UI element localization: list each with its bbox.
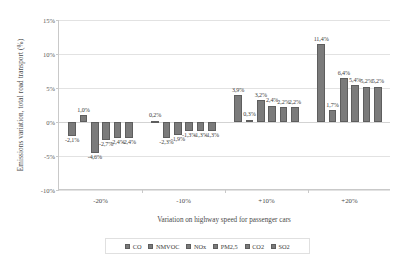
x-axis-title: Variation on highway speed for passenger…	[58, 216, 390, 224]
bar-PM25-20[interactable]	[351, 85, 358, 122]
bar-PM25-20[interactable]	[102, 122, 109, 140]
bar-value-label: 6,4%	[338, 70, 350, 76]
emissions-variation-bar-chart: Emissions variation, total road transpor…	[0, 0, 413, 274]
bar-CO2-20[interactable]	[114, 122, 121, 138]
bar-value-label: 11,4%	[314, 36, 329, 42]
bar-NMVOC-10[interactable]	[246, 120, 253, 122]
bar-SO2-20[interactable]	[374, 87, 381, 122]
legend-label: NOx	[194, 243, 206, 250]
group-separator	[308, 189, 309, 193]
bar-value-label: 0,2%	[149, 112, 161, 118]
x-tick-label: -10%	[176, 197, 191, 204]
legend-item-NOx[interactable]: NOx	[186, 243, 206, 250]
bar-NOx-10[interactable]	[174, 122, 181, 135]
legend-swatch-icon	[148, 244, 153, 249]
x-tick-label: +20%	[341, 197, 357, 204]
bar-CO2-20[interactable]	[363, 87, 370, 122]
bar-value-label: -4,6%	[88, 154, 102, 160]
group-separator	[225, 189, 226, 193]
bar-CO-20[interactable]	[68, 122, 75, 136]
bar-CO-10[interactable]	[151, 121, 158, 123]
bar-value-label: -2,4%	[122, 139, 136, 145]
y-tick-mark	[56, 156, 59, 157]
y-tick-label: -5%	[44, 153, 55, 160]
gridline-neg5	[59, 156, 390, 157]
y-tick-label: 15%	[43, 17, 55, 24]
bar-value-label: -2,1%	[65, 137, 79, 143]
bar-NOx-20[interactable]	[340, 78, 347, 122]
bar-CO-10[interactable]	[234, 95, 241, 122]
gridline-10	[59, 54, 390, 55]
legend-item-CO2[interactable]: CO2	[245, 243, 264, 250]
legend-swatch-icon	[186, 244, 191, 249]
y-tick-mark	[56, 190, 59, 191]
bar-PM25-10[interactable]	[268, 106, 275, 122]
legend-item-SO2[interactable]: SO2	[271, 243, 290, 250]
bar-PM25-10[interactable]	[185, 122, 192, 131]
bar-NOx-20[interactable]	[91, 122, 98, 153]
legend-swatch-icon	[245, 244, 250, 249]
chart-legend: CONMVOCNOxPM2,5CO2SO2	[105, 238, 310, 254]
bar-value-label: 5,2%	[372, 78, 384, 84]
legend-label: CO2	[252, 243, 264, 250]
bar-value-label: 1,0%	[77, 107, 89, 113]
x-tick-label: +10%	[258, 197, 274, 204]
legend-label: CO	[133, 243, 142, 250]
bar-NOx-10[interactable]	[257, 100, 264, 122]
bar-CO-20[interactable]	[317, 44, 324, 122]
bar-value-label: -1,3%	[205, 132, 219, 138]
legend-swatch-icon	[125, 244, 130, 249]
bar-CO2-10[interactable]	[197, 122, 204, 131]
y-tick-label: 5%	[46, 85, 55, 92]
y-tick-mark	[56, 54, 59, 55]
y-axis-title: Emissions variation, total road transpor…	[14, 5, 28, 205]
bar-NMVOC-10[interactable]	[163, 122, 170, 138]
bar-value-label: 1,7%	[326, 102, 338, 108]
bar-value-label: 2,2%	[289, 99, 301, 105]
legend-swatch-icon	[271, 244, 276, 249]
gridline-15	[59, 20, 390, 21]
bar-CO2-10[interactable]	[280, 107, 287, 122]
y-tick-mark	[56, 88, 59, 89]
y-tick-label: 0%	[46, 119, 55, 126]
y-tick-mark	[56, 122, 59, 123]
y-tick-label: -10%	[41, 187, 55, 194]
y-tick-mark	[56, 20, 59, 21]
legend-item-PM25[interactable]: PM2,5	[213, 243, 237, 250]
y-tick-label: 10%	[43, 51, 55, 58]
legend-label: PM2,5	[221, 243, 238, 250]
group-separator	[142, 189, 143, 193]
bar-value-label: 0,3%	[243, 111, 255, 117]
legend-label: NMVOC	[156, 243, 179, 250]
bar-NMVOC-20[interactable]	[80, 115, 87, 122]
plot-area: 15%10%5%0%-5%-10% -2,1%1,0%-4,6%-2,7%-2,…	[58, 20, 390, 190]
bar-SO2-20[interactable]	[125, 122, 132, 138]
bar-value-label: 3,9%	[232, 87, 244, 93]
legend-item-NMVOC[interactable]: NMVOC	[148, 243, 179, 250]
legend-swatch-icon	[213, 244, 218, 249]
legend-item-CO[interactable]: CO	[125, 243, 141, 250]
bar-NMVOC-20[interactable]	[329, 110, 336, 122]
bar-SO2-10[interactable]	[291, 107, 298, 122]
x-tick-label: -20%	[93, 197, 108, 204]
bar-SO2-10[interactable]	[208, 122, 215, 131]
legend-label: SO2	[279, 243, 290, 250]
